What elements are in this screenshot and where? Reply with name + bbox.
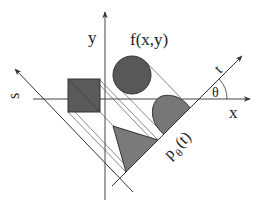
x-axis-label: x bbox=[229, 103, 238, 122]
s-axis-label: s bbox=[5, 93, 22, 99]
function-label: f(x,y) bbox=[130, 30, 168, 49]
y-axis-label: y bbox=[88, 28, 97, 47]
radon-projection-diagram: y f(x,y) x θ t s p θ (t) bbox=[0, 0, 265, 211]
theta-label: θ bbox=[212, 85, 219, 100]
theta-arc bbox=[219, 79, 227, 99]
half-disk-shape bbox=[152, 95, 190, 134]
projection-label: p θ (t) bbox=[160, 128, 197, 165]
t-axis-label: t bbox=[211, 61, 226, 76]
circle-shape bbox=[113, 56, 151, 94]
